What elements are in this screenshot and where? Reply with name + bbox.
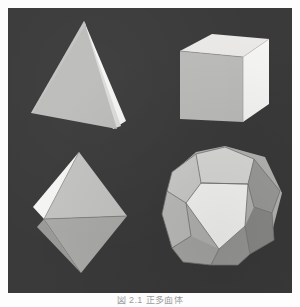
figure-caption-text: 図 2.1 正多面体	[117, 296, 184, 306]
cube-face-front	[180, 51, 243, 122]
figure-image-plate	[8, 8, 292, 293]
figure-platonic-solids: 図 2.1 正多面体	[0, 0, 300, 307]
solids-illustration	[8, 8, 292, 293]
solid-dodecahedron	[162, 146, 282, 265]
solid-octahedron	[33, 152, 127, 273]
solid-tetrahedron	[31, 21, 126, 129]
solid-cube	[180, 34, 269, 122]
figure-caption: 図 2.1 正多面体	[0, 296, 300, 307]
